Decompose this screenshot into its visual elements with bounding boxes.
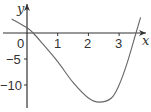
y-tick-label: −10 [0, 78, 22, 93]
x-axis-label: x [142, 33, 150, 48]
chart: 0 1 2 3 −5 −10 x y [0, 0, 151, 112]
plot-area [3, 4, 146, 108]
x-tick-label: 3 [115, 36, 122, 51]
x-tick-label: 0 [17, 36, 24, 51]
x-tick-label: 1 [54, 36, 61, 51]
data-curve [12, 17, 141, 102]
y-tick-label: −5 [6, 52, 21, 67]
x-tick-label: 2 [84, 36, 91, 51]
y-axis-label: y [16, 1, 25, 16]
